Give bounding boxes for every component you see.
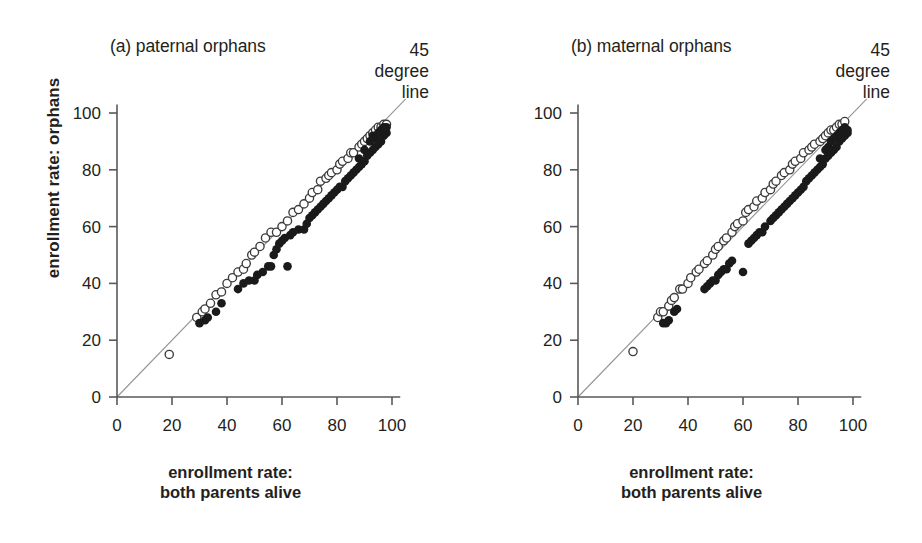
data-point-open (242, 259, 250, 267)
data-point-open (314, 186, 322, 194)
data-point-filled (739, 268, 748, 277)
data-point-open (739, 217, 747, 225)
data-point-filled (212, 308, 221, 317)
y-axis-tick-label: 0 (92, 388, 101, 407)
series-filled-circle (659, 123, 852, 328)
x-axis-tick-label: 20 (163, 416, 182, 435)
data-point-open (670, 294, 678, 302)
y-axis-tick-label: 40 (82, 274, 101, 293)
data-point-filled (382, 123, 391, 132)
data-point-open (165, 350, 173, 358)
data-point-filled (728, 256, 737, 265)
data-point-filled (267, 262, 276, 271)
x-axis-title-line2: both parents alive (0, 482, 461, 502)
x-axis-tick-label: 40 (679, 416, 698, 435)
data-point-filled (843, 126, 852, 135)
x-axis-tick-label: 100 (378, 416, 406, 435)
y-axis-tick-label: 0 (553, 388, 562, 407)
data-point-open (206, 299, 214, 307)
y-axis-tick-label: 60 (543, 218, 562, 237)
y-axis-tick-label: 100 (534, 104, 562, 123)
x-axis-tick-label: 0 (573, 416, 582, 435)
y-axis-tick-label: 20 (82, 331, 101, 350)
data-point-filled (283, 262, 292, 271)
x-axis-tick-label: 60 (734, 416, 753, 435)
x-axis-tick-label: 60 (273, 416, 292, 435)
panel-maternal-orphans: (b) maternal orphans 45 degree line 0204… (461, 0, 922, 543)
y-axis-tick-label: 100 (73, 104, 101, 123)
panel-paternal-orphans: (a) paternal orphans 45 degree line enro… (0, 0, 461, 543)
data-point-open (256, 242, 264, 250)
x-axis-tick-label: 40 (218, 416, 237, 435)
series-filled-circle (195, 123, 391, 328)
figure-scatter-panels: (a) paternal orphans 45 degree line enro… (0, 0, 922, 543)
x-axis-title-line1: enrollment rate: (0, 462, 461, 482)
y-axis-tick-label: 80 (543, 161, 562, 180)
y-axis-tick-label: 40 (543, 274, 562, 293)
data-point-filled (664, 316, 673, 325)
y-axis-tick-label: 20 (543, 331, 562, 350)
data-point-open (283, 217, 291, 225)
panel-a-x-axis-title: enrollment rate: both parents alive (0, 462, 461, 502)
y-axis-tick-label: 80 (82, 161, 101, 180)
x-axis-tick-label: 0 (112, 416, 121, 435)
x-axis-tick-label: 20 (624, 416, 643, 435)
panel-b-x-axis-title: enrollment rate: both parents alive (461, 462, 922, 502)
x-axis-tick-label: 80 (789, 416, 808, 435)
x-axis-tick-label: 80 (328, 416, 347, 435)
data-point-filled (203, 313, 212, 322)
data-point-open (629, 347, 637, 355)
x-axis-title-line2: both parents alive (461, 482, 922, 502)
x-axis-title-line1: enrollment rate: (461, 462, 922, 482)
y-axis-tick-label: 60 (82, 218, 101, 237)
data-point-open (217, 288, 225, 296)
x-axis-tick-label: 100 (839, 416, 867, 435)
data-point-filled (217, 299, 226, 308)
data-point-filled (673, 305, 682, 314)
